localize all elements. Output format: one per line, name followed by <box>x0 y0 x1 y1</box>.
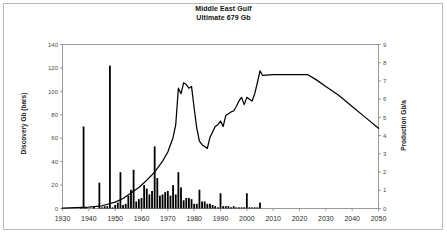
svg-text:6: 6 <box>383 96 387 102</box>
svg-text:2030: 2030 <box>318 215 334 222</box>
discovery-bars <box>80 66 261 209</box>
left-axis-label: Discovery Gb (bars) <box>20 79 27 169</box>
x-axis-ticks: 1930194019501960197019801990200020102020… <box>55 209 387 222</box>
svg-text:140: 140 <box>48 42 59 48</box>
plot-area: 020406080100120140 0123456789 1930194019… <box>0 0 447 234</box>
svg-text:2040: 2040 <box>344 215 360 222</box>
svg-text:80: 80 <box>51 112 58 118</box>
svg-text:3: 3 <box>383 151 387 157</box>
svg-text:0: 0 <box>383 206 387 212</box>
svg-text:20: 20 <box>51 182 58 188</box>
svg-text:1940: 1940 <box>81 215 97 222</box>
svg-text:1990: 1990 <box>213 215 229 222</box>
svg-text:1930: 1930 <box>55 215 71 222</box>
svg-text:2000: 2000 <box>239 215 255 222</box>
svg-text:40: 40 <box>51 159 58 165</box>
svg-text:2010: 2010 <box>265 215 281 222</box>
right-axis-label: Production Gb/a <box>400 81 407 171</box>
svg-text:5: 5 <box>383 115 387 121</box>
svg-text:1: 1 <box>383 187 387 193</box>
svg-text:0: 0 <box>55 206 59 212</box>
svg-text:120: 120 <box>48 65 59 71</box>
svg-text:2050: 2050 <box>371 215 387 222</box>
svg-text:2020: 2020 <box>292 215 308 222</box>
svg-text:60: 60 <box>51 135 58 141</box>
svg-text:1980: 1980 <box>186 215 202 222</box>
chart-figure: Middle East Gulf Ultimate 679 Gb 0204060… <box>0 0 447 234</box>
svg-text:4: 4 <box>383 133 387 139</box>
svg-text:100: 100 <box>48 89 59 95</box>
svg-text:8: 8 <box>383 60 387 66</box>
svg-text:2: 2 <box>383 169 387 175</box>
svg-text:1970: 1970 <box>160 215 176 222</box>
right-axis-ticks: 0123456789 <box>379 42 388 212</box>
chart-svg: 020406080100120140 0123456789 1930194019… <box>0 0 447 234</box>
svg-text:1950: 1950 <box>107 215 123 222</box>
svg-text:9: 9 <box>383 42 387 48</box>
svg-text:7: 7 <box>383 78 387 84</box>
left-axis-ticks: 020406080100120140 <box>48 42 63 212</box>
svg-text:1960: 1960 <box>134 215 150 222</box>
